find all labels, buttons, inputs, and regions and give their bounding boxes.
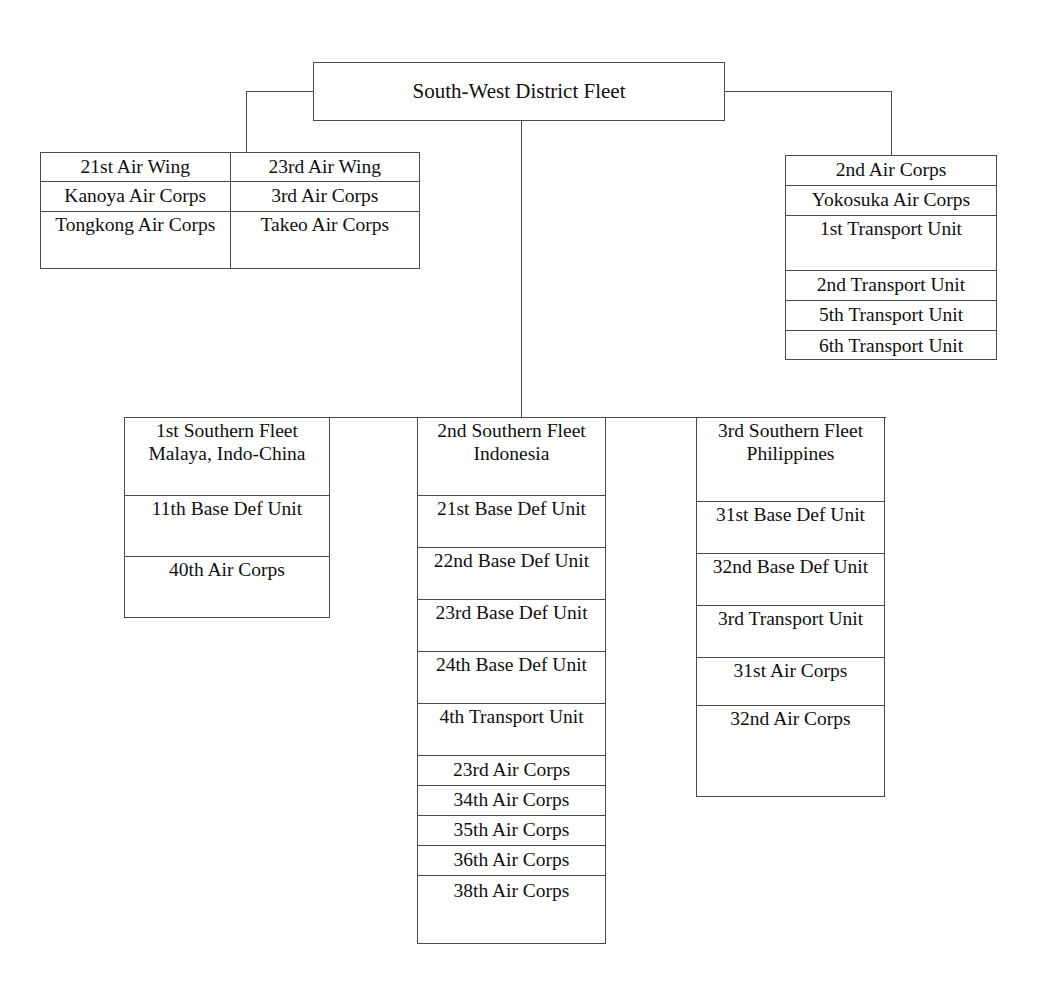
air-wing-column-21st: 21st Air Wing Kanoya Air Corps Tongkong … xyxy=(41,153,231,268)
second-southern-fleet-item[interactable]: 38th Air Corps xyxy=(418,876,605,906)
air-wing-header-23rd[interactable]: 23rd Air Wing xyxy=(231,153,420,182)
second-southern-fleet-item[interactable]: 4th Transport Unit xyxy=(418,704,605,756)
second-southern-fleet-item[interactable]: 21st Base Def Unit xyxy=(418,496,605,548)
air-wing-header-21st[interactable]: 21st Air Wing xyxy=(41,153,230,182)
third-southern-fleet-header[interactable]: 3rd Southern Fleet Philippines xyxy=(697,418,884,502)
air-wing-item[interactable]: Takeo Air Corps xyxy=(231,212,420,268)
third-southern-fleet-item[interactable]: 32nd Air Corps xyxy=(697,706,884,758)
second-southern-fleet-item[interactable]: 35th Air Corps xyxy=(418,816,605,846)
second-southern-fleet-item[interactable]: 34th Air Corps xyxy=(418,786,605,816)
second-southern-fleet-item[interactable]: 24th Base Def Unit xyxy=(418,652,605,704)
second-air-corps-group: 2nd Air Corps Yokosuka Air Corps 1st Tra… xyxy=(785,155,997,360)
second-air-corps-item[interactable]: 6th Transport Unit xyxy=(786,331,996,361)
second-southern-fleet-node: 2nd Southern Fleet Indonesia 21st Base D… xyxy=(417,417,606,944)
second-air-corps-item[interactable]: Yokosuka Air Corps xyxy=(786,186,996,216)
connector-left-horizontal xyxy=(246,91,314,92)
root-node-south-west-district-fleet[interactable]: South-West District Fleet xyxy=(313,62,725,121)
third-southern-fleet-item[interactable]: 31st Air Corps xyxy=(697,658,884,706)
second-southern-fleet-item[interactable]: 36th Air Corps xyxy=(418,846,605,876)
second-southern-fleet-item[interactable]: 23rd Air Corps xyxy=(418,756,605,786)
air-wing-column-23rd: 23rd Air Wing 3rd Air Corps Takeo Air Co… xyxy=(231,153,420,268)
second-southern-fleet-item[interactable]: 23rd Base Def Unit xyxy=(418,600,605,652)
air-wing-item[interactable]: Kanoya Air Corps xyxy=(41,182,230,211)
second-air-corps-item[interactable]: 2nd Transport Unit xyxy=(786,271,996,301)
connector-center-vertical xyxy=(521,121,522,418)
connector-right-horizontal xyxy=(724,91,891,92)
root-node-label: South-West District Fleet xyxy=(314,63,724,120)
first-southern-fleet-node: 1st Southern Fleet Malaya, Indo-China 11… xyxy=(124,417,330,618)
org-chart-canvas: South-West District Fleet 21st Air Wing … xyxy=(0,0,1053,986)
second-southern-fleet-header[interactable]: 2nd Southern Fleet Indonesia xyxy=(418,418,605,496)
second-air-corps-item[interactable]: 1st Transport Unit xyxy=(786,216,996,271)
third-southern-fleet-node: 3rd Southern Fleet Philippines 31st Base… xyxy=(696,417,885,797)
first-southern-fleet-item[interactable]: 11th Base Def Unit xyxy=(125,496,329,557)
second-air-corps-header[interactable]: 2nd Air Corps xyxy=(786,156,996,186)
first-southern-fleet-header[interactable]: 1st Southern Fleet Malaya, Indo-China xyxy=(125,418,329,496)
connector-left-vertical xyxy=(246,91,247,153)
connector-right-vertical xyxy=(891,91,892,156)
first-southern-fleet-item[interactable]: 40th Air Corps xyxy=(125,557,329,618)
second-southern-fleet-item[interactable]: 22nd Base Def Unit xyxy=(418,548,605,600)
third-southern-fleet-item[interactable]: 31st Base Def Unit xyxy=(697,502,884,554)
third-southern-fleet-item[interactable]: 3rd Transport Unit xyxy=(697,606,884,658)
third-southern-fleet-item[interactable]: 32nd Base Def Unit xyxy=(697,554,884,606)
air-wing-item[interactable]: Tongkong Air Corps xyxy=(41,212,230,268)
air-wings-group: 21st Air Wing Kanoya Air Corps Tongkong … xyxy=(40,152,420,269)
second-air-corps-item[interactable]: 5th Transport Unit xyxy=(786,301,996,331)
air-wing-item[interactable]: 3rd Air Corps xyxy=(231,182,420,211)
